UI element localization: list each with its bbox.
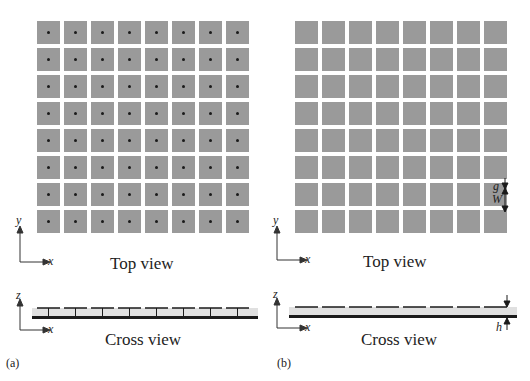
panel-tag: (a) <box>6 356 19 371</box>
top-view-axis-icon <box>17 226 50 265</box>
ground-plane <box>32 316 258 319</box>
height-label: h <box>496 320 502 335</box>
dimension-arrows-g-w <box>502 178 508 212</box>
y-axis-label: y <box>16 213 21 228</box>
cross-view-caption: Cross view <box>361 330 437 350</box>
x-axis-label: x <box>305 252 310 267</box>
panel-tag: (b) <box>277 356 291 371</box>
axes-and-cross-section-a <box>0 0 265 381</box>
z-axis-label: z <box>273 287 278 302</box>
y-axis-label: y <box>273 213 278 228</box>
substrate <box>289 307 517 316</box>
ground-plane <box>289 315 517 318</box>
x-axis-label: x <box>305 320 310 335</box>
cross-view-caption: Cross view <box>105 330 181 350</box>
top-view-caption: Top view <box>363 252 427 272</box>
x-axis-label: x <box>48 322 53 337</box>
panel-b-patch-surface: g W h y x Top view z x Cross view (b) <box>265 0 530 381</box>
substrate <box>32 308 258 317</box>
top-view-axis-icon <box>274 226 307 263</box>
width-label: W <box>492 192 502 207</box>
z-axis-label: z <box>16 288 21 303</box>
top-view-caption: Top view <box>110 254 174 274</box>
x-axis-label: x <box>48 254 53 269</box>
panel-a-mushroom-surface: y x Top view z x Cross view (a) <box>0 0 265 381</box>
